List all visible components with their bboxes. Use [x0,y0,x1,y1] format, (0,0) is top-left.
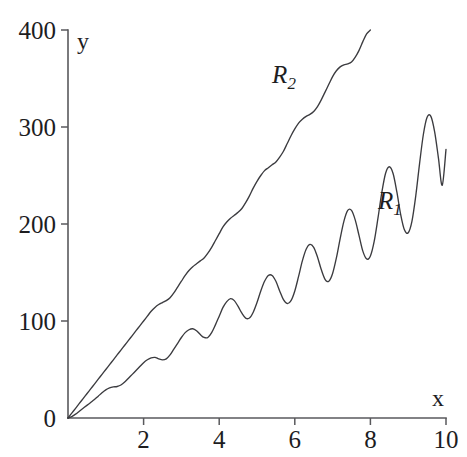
y-tick-label: 200 [19,211,57,238]
y-tick-label: 0 [44,405,57,432]
series-label-r1: R1 [377,187,402,219]
x-tick-label: 6 [289,426,302,453]
line-chart-canvas: 0100200300400 246810 R2R1 x y [0,0,467,457]
series-curve-r2 [68,30,370,418]
y-tick-label: 100 [19,308,57,335]
y-axis-ticks: 0100200300400 [19,17,69,432]
y-tick-label: 300 [19,114,57,141]
data-series-group [68,30,446,418]
chart-figure: 0100200300400 246810 R2R1 x y [0,0,467,457]
x-tick-label: 8 [364,426,377,453]
axes-group [68,30,446,418]
y-axis-label: y [77,28,89,54]
x-tick-label: 10 [434,426,459,453]
series-label-r2: R2 [271,61,296,93]
x-tick-label: 2 [137,426,150,453]
series-annotations: R2R1 [271,61,402,219]
x-tick-label: 4 [213,426,226,453]
x-axis-label: x [432,385,444,411]
y-tick-label: 400 [19,17,57,44]
x-axis-ticks: 246810 [137,418,458,453]
series-curve-r1 [68,115,446,418]
